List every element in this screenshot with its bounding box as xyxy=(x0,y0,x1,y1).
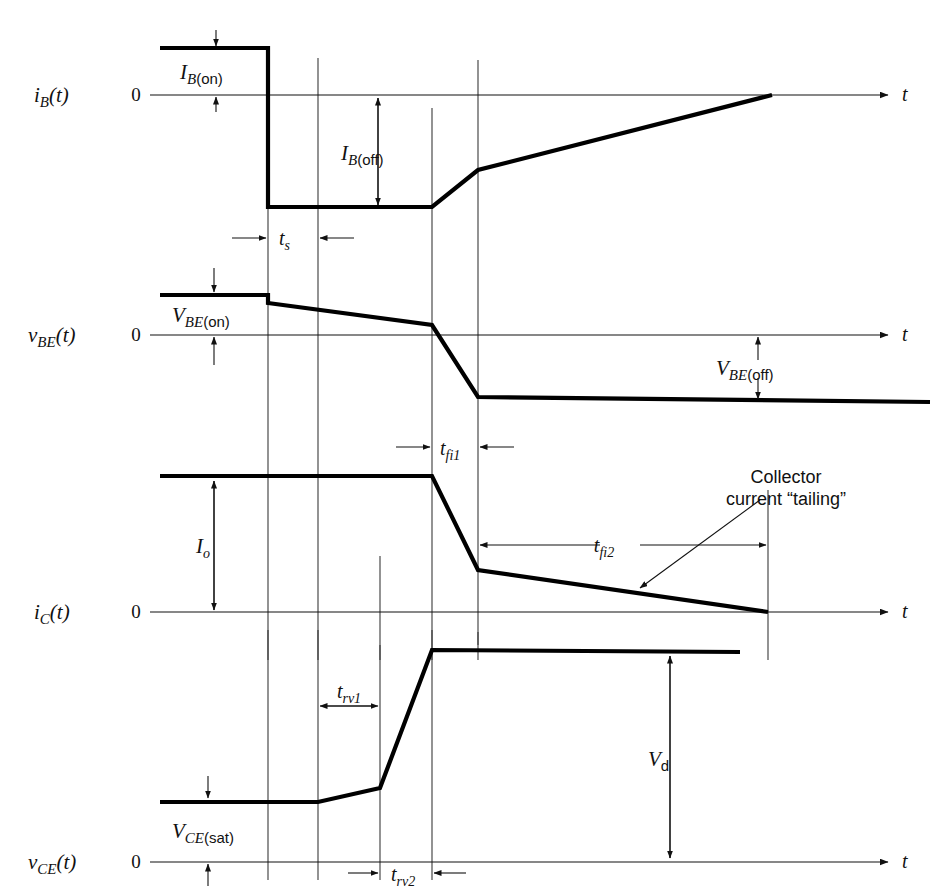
figure-canvas: iB(t) 0 t vBE(t) 0 t iC(t) 0 t vCE(t) 0 … xyxy=(0,0,945,894)
ic-trace xyxy=(160,476,768,612)
waveform-diagram: iB(t) 0 t vBE(t) 0 t iC(t) 0 t vCE(t) 0 … xyxy=(0,0,945,894)
vbe-trace xyxy=(160,295,930,402)
axis-label-vce: vCE(t) xyxy=(28,850,76,877)
label-trv2: trv2 xyxy=(391,863,415,889)
label-tfi1: tfi1 xyxy=(440,437,460,463)
label-vbe-off: VBE(off) xyxy=(716,356,774,383)
label-io: Io xyxy=(195,534,210,561)
ib-t-label: t xyxy=(902,83,908,105)
ic-t-label: t xyxy=(902,600,908,622)
ic-zero-label: 0 xyxy=(131,601,141,622)
axis-label-vbe: vBE(t) xyxy=(28,323,75,350)
axis-label-ic: iC(t) xyxy=(34,600,70,627)
panel-ib xyxy=(150,30,888,238)
ib-zero-label: 0 xyxy=(131,84,141,105)
callout-tailing-line1: Collector xyxy=(750,467,821,487)
label-tfi2: tfi2 xyxy=(594,534,614,560)
tailing-callout-leader xyxy=(640,500,760,588)
vbe-zero-label: 0 xyxy=(131,324,141,345)
vce-zero-label: 0 xyxy=(131,851,141,872)
panel-vbe xyxy=(150,268,930,447)
panel-vce xyxy=(150,650,888,886)
callout-tailing-line2: current “tailing” xyxy=(726,489,846,509)
label-vd: Vd xyxy=(648,747,669,774)
axis-label-ib: iB(t) xyxy=(34,83,69,110)
label-trv1: trv1 xyxy=(337,680,361,706)
vce-t-label: t xyxy=(902,850,908,872)
ib-trace xyxy=(160,48,772,207)
gridline-group xyxy=(268,58,768,880)
vbe-t-label: t xyxy=(902,323,908,345)
label-ib-off: IB(off) xyxy=(340,141,384,168)
label-vbe-on: VBE(on) xyxy=(172,303,230,330)
label-ib-on: IB(on) xyxy=(179,60,223,87)
label-vce-sat: VCE(sat) xyxy=(172,819,234,846)
label-ts: ts xyxy=(279,227,291,253)
vce-trace xyxy=(160,650,740,802)
